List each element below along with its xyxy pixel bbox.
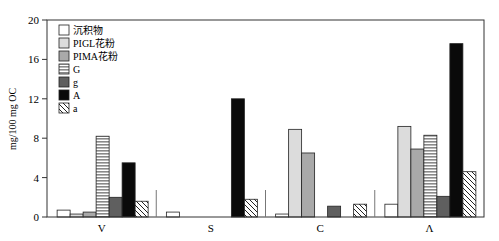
legend-swatch bbox=[59, 38, 69, 48]
y-tick-label: 0 bbox=[34, 211, 40, 223]
bar-Λ-a bbox=[463, 172, 476, 217]
legend-label: g bbox=[73, 77, 78, 88]
legend-label: PIMA花粉 bbox=[73, 50, 118, 62]
bar-V-PIMA花粉 bbox=[83, 212, 96, 217]
bar-Λ-A bbox=[450, 44, 463, 217]
bar-Λ-PIMA花粉 bbox=[411, 149, 424, 217]
legend-swatch bbox=[59, 25, 69, 35]
legend-label: A bbox=[73, 90, 81, 101]
bar-Λ-g bbox=[437, 196, 450, 217]
bar-V-A bbox=[122, 163, 135, 217]
legend-label: G bbox=[73, 64, 80, 75]
bar-V-G bbox=[96, 136, 109, 217]
bar-Λ-G bbox=[424, 135, 437, 217]
legend: 沉积物PIGL花粉PIMA花粉GgAa bbox=[59, 24, 118, 114]
x-category-label: V bbox=[98, 222, 106, 234]
y-tick-label: 8 bbox=[34, 132, 40, 144]
bar-S-A bbox=[231, 99, 244, 217]
bar-C-PIGL花粉 bbox=[289, 129, 302, 217]
bar-S-沉积物 bbox=[166, 212, 179, 217]
legend-label: 沉积物 bbox=[73, 24, 103, 36]
bar-C-PIMA花粉 bbox=[302, 153, 315, 217]
x-category-label: C bbox=[316, 222, 323, 234]
plot-area bbox=[57, 44, 476, 217]
bar-S-a bbox=[244, 199, 257, 217]
y-tick-label: 16 bbox=[28, 53, 40, 65]
y-tick-label: 4 bbox=[34, 172, 40, 184]
bar-C-a bbox=[354, 204, 367, 217]
bar-V-沉积物 bbox=[57, 210, 70, 217]
bar-C-g bbox=[328, 206, 341, 217]
y-tick-label: 20 bbox=[28, 14, 40, 26]
bar-V-a bbox=[135, 201, 148, 217]
legend-label: a bbox=[73, 103, 78, 114]
legend-swatch bbox=[59, 103, 69, 113]
x-category-label: S bbox=[208, 222, 214, 234]
x-category-label: Λ bbox=[425, 222, 433, 234]
legend-swatch bbox=[59, 77, 69, 87]
legend-swatch bbox=[59, 64, 69, 74]
legend-swatch bbox=[59, 51, 69, 61]
bar-V-g bbox=[109, 197, 122, 217]
y-tick-label: 12 bbox=[28, 93, 39, 105]
legend-swatch bbox=[59, 90, 69, 100]
y-axis-label: mg/100 mg OC bbox=[7, 88, 18, 151]
bar-chart: 048121620VSCΛ 沉积物PIGL花粉PIMA花粉GgAa mg/100… bbox=[0, 0, 499, 241]
bar-Λ-沉积物 bbox=[385, 204, 398, 217]
bar-Λ-PIGL花粉 bbox=[398, 126, 411, 217]
legend-label: PIGL花粉 bbox=[73, 37, 115, 49]
